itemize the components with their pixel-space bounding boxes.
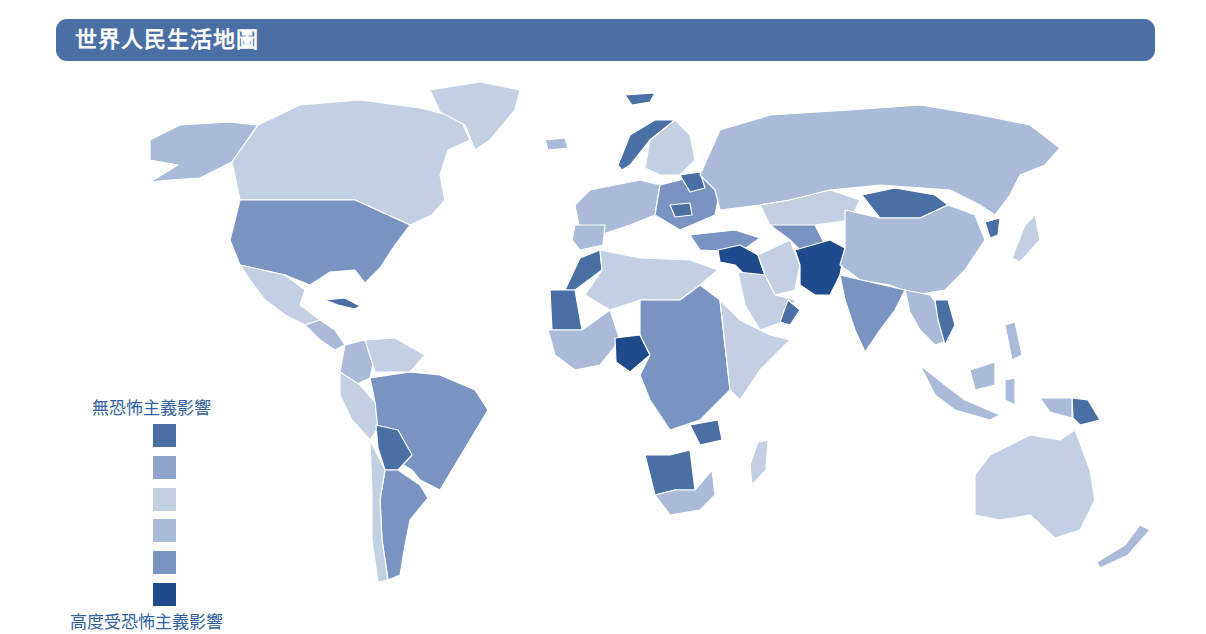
world-map-svg xyxy=(0,0,1206,634)
region-madagascar xyxy=(750,440,768,485)
region-iberia xyxy=(572,225,605,250)
region-north-korea xyxy=(985,218,1000,238)
legend-swatch-6 xyxy=(153,583,176,606)
region-australia xyxy=(975,430,1095,538)
region-central-america xyxy=(305,320,345,350)
region-japan xyxy=(1012,215,1040,262)
legend-top-label: 無恐怖主義影響 xyxy=(92,394,211,419)
region-argentina xyxy=(380,470,428,580)
region-mauritania xyxy=(550,290,582,330)
region-new-zealand xyxy=(1097,525,1150,568)
region-svalbard xyxy=(625,93,655,105)
legend-swatch-4 xyxy=(153,519,176,542)
region-new-guinea-west xyxy=(1040,398,1072,418)
region-zimbabwe-zambia xyxy=(690,420,722,445)
region-indonesia xyxy=(920,362,1015,420)
region-papua-new-guinea xyxy=(1072,398,1100,425)
legend-swatch-5 xyxy=(153,551,176,574)
region-iceland xyxy=(545,138,568,150)
legend-swatch-1 xyxy=(153,424,176,447)
region-central-africa xyxy=(640,285,730,430)
legend-swatch-2 xyxy=(153,456,176,479)
region-venezuela xyxy=(365,338,425,372)
region-afghanistan-pakistan xyxy=(795,240,845,295)
region-cuba xyxy=(325,298,360,309)
region-philippines xyxy=(1005,322,1022,360)
region-namibia-botswana xyxy=(645,450,695,495)
legend-swatch-3 xyxy=(153,488,176,511)
world-map xyxy=(0,0,1206,634)
legend-bottom-label: 高度受恐怖主義影響 xyxy=(70,608,223,633)
